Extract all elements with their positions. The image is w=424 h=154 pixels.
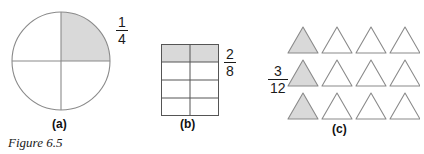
circle-diagram <box>11 11 111 111</box>
fraction-denominator: 8 <box>224 63 236 78</box>
panel-label-b: (b) <box>180 117 195 131</box>
panel-label-c: (c) <box>332 122 347 136</box>
triangle-r3c3 <box>356 93 386 119</box>
triangle-r1c1-shaded <box>288 27 318 53</box>
triangle-r3c4 <box>390 93 420 119</box>
fraction-numerator: 1 <box>116 15 128 30</box>
fraction-numerator: 3 <box>268 64 288 79</box>
rectangle-grid-fraction-model <box>161 44 219 116</box>
circle-fraction-model <box>11 11 111 111</box>
fraction-numerator: 2 <box>224 47 236 62</box>
circle-shaded-quadrant <box>61 12 110 61</box>
triangle-array-fraction-model <box>287 26 420 120</box>
triangle-r1c2 <box>322 27 352 53</box>
triangle-array-diagram <box>287 26 420 120</box>
panel-label-a: (a) <box>52 117 67 131</box>
triangle-r2c3 <box>356 60 386 86</box>
triangle-r3c2 <box>322 93 352 119</box>
triangle-r2c4 <box>390 60 420 86</box>
triangle-r1c3 <box>356 27 386 53</box>
triangle-r2c2 <box>322 60 352 86</box>
fraction-denominator: 12 <box>268 80 288 95</box>
fraction-denominator: 4 <box>116 31 128 46</box>
fraction-label-two-eighths: 2 8 <box>224 47 236 78</box>
fraction-label-one-fourth: 1 4 <box>116 15 128 46</box>
figure-container: 1 4 (a) 2 8 (b) <box>0 0 424 154</box>
fraction-label-three-twelfths: 3 12 <box>268 64 288 95</box>
triangle-r2c1-shaded <box>288 60 318 86</box>
rectangle-grid-diagram <box>161 44 219 116</box>
figure-caption: Figure 6.5 <box>8 135 62 151</box>
triangle-r3c1-shaded <box>288 93 318 119</box>
triangle-r1c4 <box>390 27 420 53</box>
